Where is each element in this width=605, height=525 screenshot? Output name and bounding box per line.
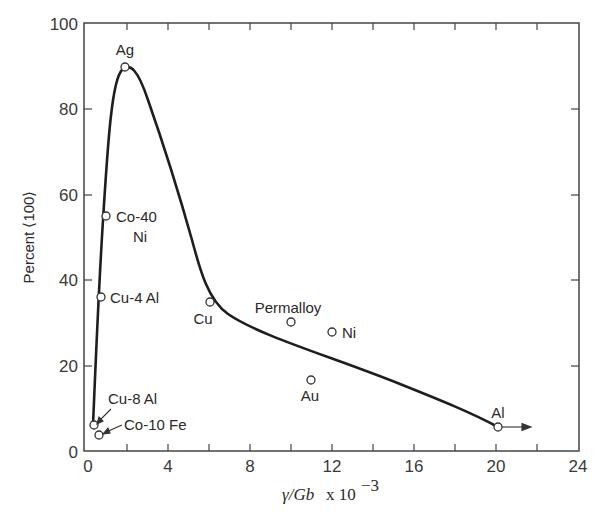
arrow-right-icon xyxy=(522,424,531,431)
arrowhead-co10fe-icon xyxy=(103,428,110,434)
x-tick-16: 16 xyxy=(405,457,424,476)
x-axis-title-exp: −3 xyxy=(361,476,379,495)
x-tick-24: 24 xyxy=(569,457,588,476)
x-tick-20: 20 xyxy=(487,457,506,476)
point-al xyxy=(494,423,502,431)
point-au xyxy=(307,376,315,384)
point-co10fe xyxy=(95,431,103,439)
point-permalloy xyxy=(287,318,295,326)
x-tick-labels: 0 4 8 12 16 20 24 xyxy=(83,457,587,476)
y-tick-0: 0 xyxy=(69,443,78,462)
x-tick-12: 12 xyxy=(323,457,342,476)
point-ag xyxy=(121,63,129,71)
label-co10fe: Co-10 Fe xyxy=(124,416,187,433)
x-tick-0: 0 xyxy=(83,457,92,476)
x-axis-title: γ/Gb x 10 −3 xyxy=(282,476,379,504)
label-cu4al: Cu-4 Al xyxy=(110,289,159,306)
chart: 0 20 40 60 80 100 0 4 8 12 16 20 24 Perc… xyxy=(0,0,605,525)
y-tick-20: 20 xyxy=(59,357,78,376)
label-co40-ni: Ni xyxy=(133,228,147,245)
plot-frame xyxy=(84,23,579,451)
point-ni xyxy=(328,328,336,336)
label-al: Al xyxy=(491,404,504,421)
point-cu4al xyxy=(97,293,105,301)
y-tick-60: 60 xyxy=(59,186,78,205)
point-co40ni xyxy=(102,212,110,220)
x-tick-8: 8 xyxy=(245,457,254,476)
y-tick-100: 100 xyxy=(50,15,78,34)
y-tick-labels: 0 20 40 60 80 100 xyxy=(50,15,78,462)
x-ticks xyxy=(127,23,537,451)
y-tick-80: 80 xyxy=(59,100,78,119)
point-labels: Ag Co-40 Ni Cu-4 Al Cu-8 Al Co-10 Fe Cu … xyxy=(108,41,505,433)
label-ag: Ag xyxy=(116,41,134,58)
point-cu8al xyxy=(90,421,98,429)
label-cu8al: Cu-8 Al xyxy=(108,390,157,407)
x-tick-4: 4 xyxy=(163,457,172,476)
data-points xyxy=(90,63,502,439)
label-cu: Cu xyxy=(193,310,212,327)
label-co40: Co-40 xyxy=(116,208,157,225)
x-axis-title-main: γ/Gb xyxy=(282,485,314,504)
trend-curve xyxy=(93,67,498,427)
label-ni: Ni xyxy=(342,324,356,341)
x-axis-title-mult: x 10 xyxy=(326,485,356,504)
label-au: Au xyxy=(301,387,319,404)
label-permalloy: Permalloy xyxy=(255,299,322,316)
point-cu xyxy=(206,298,214,306)
y-tick-40: 40 xyxy=(59,271,78,290)
y-axis-title: Percent ⟨100⟩ xyxy=(20,191,37,284)
